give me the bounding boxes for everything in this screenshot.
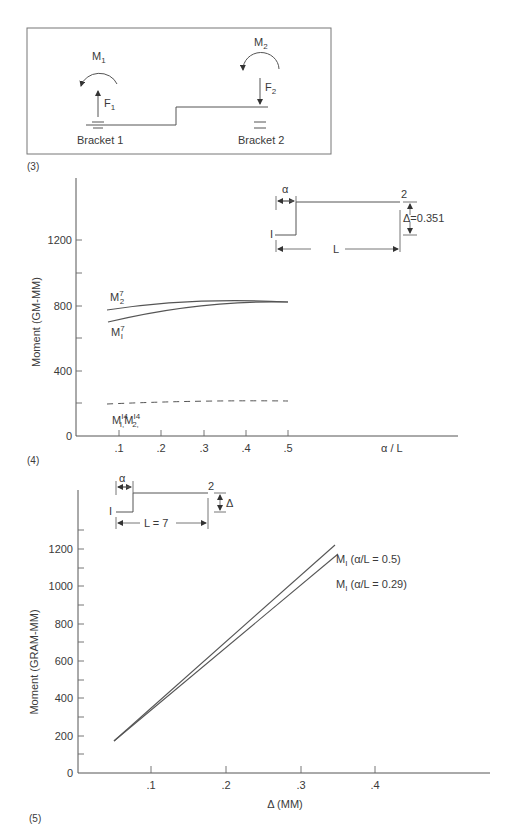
y-tick-label: 400 [54, 365, 72, 377]
moment-arc-2-icon [243, 53, 279, 70]
alpha-label: α [119, 472, 126, 484]
f1-label: F1 [104, 97, 116, 112]
x-tick-label: .5 [283, 442, 292, 454]
series-alpha-0.29-label: MI (α/L = 0.29) [336, 578, 407, 593]
figure-3-bracket-diagram: M1 M2 F1 F2 Bracket 1 Bracket 2 (3) [27, 28, 331, 172]
y-tick-label: 600 [55, 655, 73, 667]
y-tick-label: 0 [67, 767, 73, 779]
m1-7-label: M7I [111, 324, 125, 341]
series-alpha-0.5 [114, 545, 335, 741]
figure-3-frame [27, 28, 331, 154]
figure-4-chart: 0 400 800 1200 .1 .2 .3 .4 .5 α / L Mome… [27, 178, 458, 466]
figure-5-chart: 0 200 400 600 800 1000 1200 .1 .2 .3 .4 … [28, 472, 490, 824]
figure-canvas: M1 M2 F1 F2 Bracket 1 Bracket 2 (3) 0 [0, 0, 513, 831]
x-tick-label: .2 [221, 779, 230, 791]
y-tick-label: 800 [54, 300, 72, 312]
length-label: L [333, 243, 339, 255]
moment-arc-1-icon [81, 73, 117, 86]
y-tick-label: 1000 [49, 580, 73, 592]
length-label: L = 7 [144, 517, 168, 529]
y-axis-label: Moment (GM-MM) [30, 277, 42, 367]
figure-5-inset: α I 2 L = 7 Δ [109, 472, 234, 529]
y-tick-label: 800 [55, 618, 73, 630]
node-2-label: 2 [208, 480, 214, 492]
figure-4-inset: α I 2 L Δ=0.351 [270, 183, 444, 255]
figure-4-number: (4) [27, 455, 39, 466]
y-axis-label: Moment (GRAM-MM) [28, 609, 40, 714]
y-tick-label: 400 [55, 692, 73, 704]
x-tick-label: .1 [114, 442, 123, 454]
delta-label: Δ [226, 497, 234, 509]
bracket-2-label: Bracket 2 [238, 134, 284, 146]
x-tick-label: .1 [146, 779, 155, 791]
x-tick-label: .4 [241, 442, 250, 454]
node-1-label: I [109, 505, 112, 517]
x-axis-label: Δ (MM) [267, 798, 302, 810]
y-tick-label: 200 [55, 730, 73, 742]
m1-label: M1 [92, 50, 106, 65]
x-axis-label: α / L [381, 442, 403, 454]
m-i4-label: MI4I,MI42, [112, 412, 141, 429]
series-m1-7 [108, 302, 288, 322]
x-tick-label: .4 [370, 779, 379, 791]
series-alpha-0.29 [114, 554, 338, 741]
m2-label: M2 [254, 36, 268, 51]
node-1-label: I [270, 228, 273, 240]
series-m-i4 [107, 401, 288, 404]
alpha-label: α [282, 183, 289, 195]
figure-3-number: (3) [27, 161, 39, 172]
y-tick-label: 1200 [48, 234, 72, 246]
x-tick-label: .3 [296, 779, 305, 791]
figure-5-number: (5) [29, 813, 41, 824]
node-2-label: 2 [401, 188, 407, 200]
y-tick-label: 1200 [49, 543, 73, 555]
bracket-1-label: Bracket 1 [77, 134, 123, 146]
x-tick-label: .3 [199, 442, 208, 454]
y-tick-label: 0 [66, 430, 72, 442]
series-alpha-0.5-label: MI (α/L = 0.5) [336, 553, 401, 568]
f2-label: F2 [265, 81, 277, 96]
delta-label: Δ=0.351 [403, 212, 444, 224]
m2-7-label: M72 [110, 289, 125, 306]
x-tick-label: .2 [156, 442, 165, 454]
